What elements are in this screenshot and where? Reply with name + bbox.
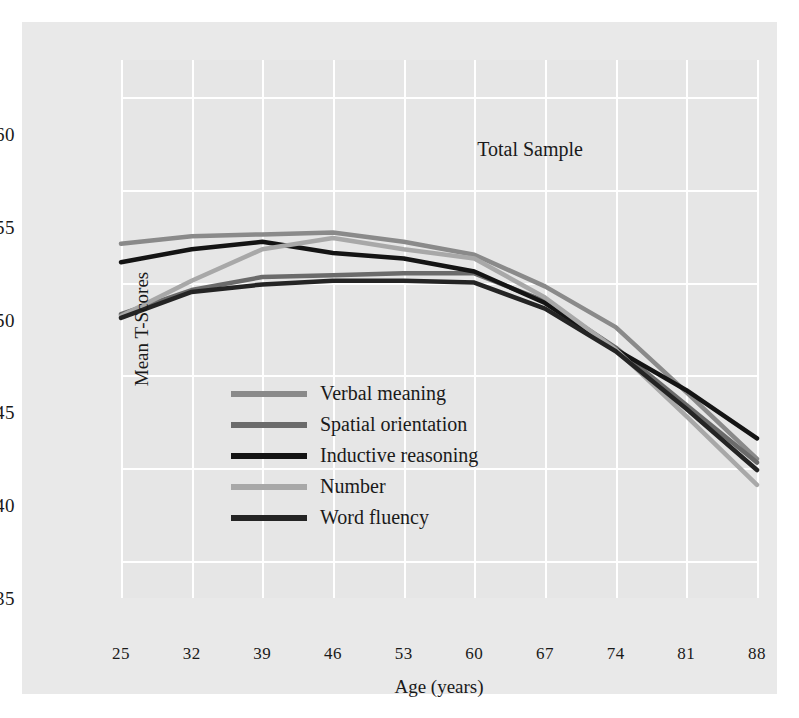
x-tick-label: 88 [732,644,782,664]
y-tick-label: 50 [0,310,15,332]
y-tick-label: 35 [0,588,15,610]
legend-swatch [231,453,307,459]
y-tick-label: 45 [0,402,15,424]
x-axis-label: Age (years) [121,676,757,698]
chart-annotation: Total Sample [477,138,583,161]
legend-swatch [231,422,307,428]
x-tick-label: 81 [661,644,711,664]
legend-label: Inductive reasoning [320,444,478,467]
legend-item: Inductive reasoning [231,440,478,471]
x-tick-label: 39 [237,644,287,664]
gridline-vertical [757,60,759,598]
legend-label: Word fluency [320,506,429,529]
y-tick-label: 60 [0,124,15,146]
x-tick-label: 67 [520,644,570,664]
y-tick-label: 55 [0,217,15,239]
legend-item: Number [231,471,478,502]
x-tick-label: 53 [379,644,429,664]
plot-wrapper: 354045505560 25323946536067748188 Mean T… [121,60,757,598]
legend-swatch [231,391,307,397]
figure-panel: 354045505560 25323946536067748188 Mean T… [22,22,777,694]
legend-item: Word fluency [231,502,478,533]
y-tick-label: 40 [0,495,15,517]
legend-label: Verbal meaning [320,382,446,405]
x-tick-label: 32 [167,644,217,664]
legend-swatch [231,515,307,521]
legend-item: Spatial orientation [231,409,478,440]
x-tick-label: 74 [591,644,641,664]
legend-swatch [231,484,307,490]
legend-label: Number [320,475,386,498]
x-tick-label: 60 [449,644,499,664]
x-tick-label: 25 [96,644,146,664]
legend-label: Spatial orientation [320,413,467,436]
chart-legend: Verbal meaningSpatial orientationInducti… [231,378,478,533]
x-tick-label: 46 [308,644,358,664]
legend-item: Verbal meaning [231,378,478,409]
y-axis-label: Mean T-Scores [131,272,153,387]
